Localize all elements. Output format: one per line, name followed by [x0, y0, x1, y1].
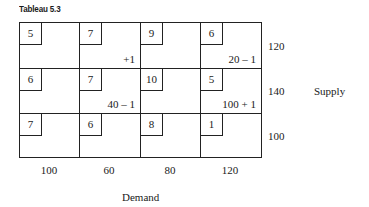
cost-box: 10 — [141, 69, 163, 91]
supply-label: Supply — [314, 85, 345, 97]
cell-r2-c2: 7 40 – 1 — [80, 69, 141, 114]
cost-box: 6 — [80, 114, 102, 136]
cell-r3-c3: 8 — [141, 114, 201, 158]
cost-box: 7 — [80, 69, 102, 91]
demand-value-col4: 120 — [200, 164, 260, 176]
supply-value-row2: 140 — [268, 85, 285, 97]
allocation: +1 — [123, 53, 135, 65]
cell-r3-c1: 7 — [20, 114, 80, 158]
transportation-tableau: 5 7 +1 9 6 20 – 1 6 7 40 – 1 10 5 100 + … — [19, 22, 262, 158]
demand-value-col3: 80 — [140, 164, 200, 176]
allocation: 20 – 1 — [229, 53, 257, 65]
cost-box: 9 — [141, 23, 163, 45]
cost-box: 6 — [20, 69, 42, 91]
cell-r1-c2: 7 +1 — [80, 23, 141, 69]
cost-box: 1 — [201, 114, 223, 136]
tableau-title: Tableau 5.3 — [19, 3, 61, 14]
cell-r1-c4: 6 20 – 1 — [201, 23, 262, 69]
cost-box: 6 — [201, 23, 223, 45]
cell-r2-c4: 5 100 + 1 — [201, 69, 262, 114]
cell-r3-c4: 1 — [201, 114, 262, 158]
demand-label: Demand — [122, 191, 159, 203]
cell-r2-c1: 6 — [20, 69, 80, 114]
cost-box: 5 — [201, 69, 223, 91]
cell-r1-c1: 5 — [20, 23, 80, 69]
supply-value-row1: 120 — [268, 40, 285, 52]
cost-box: 7 — [20, 114, 42, 136]
cost-box: 5 — [20, 23, 42, 45]
allocation: 100 + 1 — [222, 98, 256, 110]
cost-box: 7 — [80, 23, 102, 45]
cell-r3-c2: 6 — [80, 114, 141, 158]
cell-r2-c3: 10 — [141, 69, 201, 114]
demand-value-col2: 60 — [79, 164, 139, 176]
cost-box: 8 — [141, 114, 163, 136]
supply-value-row3: 100 — [268, 130, 285, 142]
allocation: 40 – 1 — [108, 98, 136, 110]
cell-r1-c3: 9 — [141, 23, 201, 69]
demand-value-col1: 100 — [19, 164, 79, 176]
